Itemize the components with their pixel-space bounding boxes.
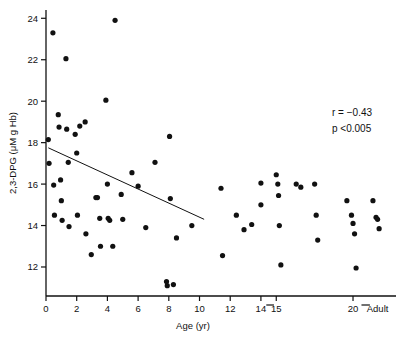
- data-point: [46, 161, 51, 166]
- x-tick-label-12: 12: [225, 303, 236, 314]
- data-point: [370, 198, 375, 203]
- y-tick-label-24: 24: [27, 13, 38, 24]
- data-point: [349, 213, 354, 218]
- data-point: [274, 172, 279, 177]
- x-tick-label-2: 2: [74, 303, 79, 314]
- scatter-plot-figure: 12141618202224024681012141520AdultAge (y…: [0, 0, 409, 338]
- data-point: [168, 196, 173, 201]
- data-point: [275, 181, 280, 186]
- data-point: [110, 244, 115, 249]
- data-point: [56, 112, 61, 117]
- data-point: [60, 218, 65, 223]
- data-point: [278, 262, 283, 267]
- data-point: [59, 198, 64, 203]
- data-point: [174, 235, 179, 240]
- x-tick-label-adult: Adult: [367, 303, 389, 314]
- data-point: [97, 216, 102, 221]
- data-point: [77, 123, 82, 128]
- data-point: [83, 231, 88, 236]
- regression-line: [48, 148, 204, 220]
- data-point: [350, 221, 355, 226]
- data-point: [167, 134, 172, 139]
- data-point: [89, 252, 94, 257]
- data-point: [277, 223, 282, 228]
- y-tick-label-20: 20: [27, 96, 38, 107]
- x-tick-label-14: 14: [256, 303, 267, 314]
- data-point: [98, 244, 103, 249]
- data-point: [95, 195, 100, 200]
- data-point: [220, 253, 225, 258]
- data-point: [171, 282, 176, 287]
- data-point: [152, 160, 157, 165]
- data-point: [46, 137, 51, 142]
- annotation-correlation: r = −0.43: [332, 107, 372, 118]
- data-point: [73, 132, 78, 137]
- data-point: [315, 237, 320, 242]
- data-point: [66, 160, 71, 165]
- data-point: [64, 127, 69, 132]
- data-point: [129, 170, 134, 175]
- data-point: [58, 177, 63, 182]
- x-tick-label-0: 0: [43, 303, 48, 314]
- data-point: [83, 119, 88, 124]
- data-point: [234, 213, 239, 218]
- data-point: [314, 213, 319, 218]
- data-point: [56, 124, 61, 129]
- y-tick-label-18: 18: [27, 137, 38, 148]
- data-point: [120, 217, 125, 222]
- y-tick-label-12: 12: [27, 261, 38, 272]
- x-tick-label-8: 8: [166, 303, 171, 314]
- data-point: [298, 185, 303, 190]
- annotation-pvalue: p <0.005: [332, 123, 372, 134]
- data-point: [377, 226, 382, 231]
- data-point: [75, 213, 80, 218]
- data-point: [74, 150, 79, 155]
- data-point: [107, 218, 112, 223]
- data-point: [143, 225, 148, 230]
- x-tick-label-4: 4: [105, 303, 110, 314]
- data-point: [136, 184, 141, 189]
- x-tick-label-20: 20: [348, 303, 359, 314]
- data-point: [344, 198, 349, 203]
- data-point: [249, 222, 254, 227]
- data-point: [189, 223, 194, 228]
- data-point: [312, 181, 317, 186]
- data-point: [103, 98, 108, 103]
- data-point: [276, 193, 281, 198]
- data-point: [52, 213, 57, 218]
- data-point: [375, 217, 380, 222]
- data-point: [165, 283, 170, 288]
- data-point: [105, 181, 110, 186]
- y-tick-label-14: 14: [27, 220, 38, 231]
- data-point: [119, 192, 124, 197]
- data-point: [66, 224, 71, 229]
- y-tick-label-16: 16: [27, 179, 38, 190]
- y-axis-title: 2,3-DPG (μM g Hb): [7, 112, 18, 194]
- data-point: [241, 227, 246, 232]
- data-point: [63, 56, 68, 61]
- data-point: [112, 18, 117, 23]
- data-point: [50, 30, 55, 35]
- chart-canvas: 12141618202224024681012141520AdultAge (y…: [0, 0, 409, 338]
- data-point: [258, 202, 263, 207]
- data-point: [353, 265, 358, 270]
- data-point: [294, 181, 299, 186]
- data-point: [352, 231, 357, 236]
- x-axis-title: Age (yr): [176, 320, 210, 331]
- data-point: [218, 186, 223, 191]
- x-tick-label-6: 6: [135, 303, 140, 314]
- data-point: [51, 183, 56, 188]
- y-tick-label-22: 22: [27, 54, 38, 65]
- x-tick-label-10: 10: [194, 303, 205, 314]
- data-point: [258, 180, 263, 185]
